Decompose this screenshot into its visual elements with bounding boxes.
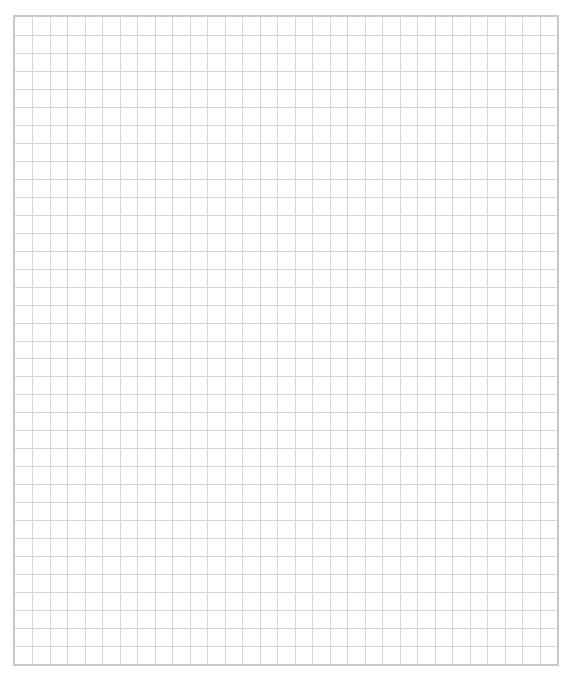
grid-lines (15, 17, 557, 664)
graph-paper-sheet (13, 15, 559, 666)
